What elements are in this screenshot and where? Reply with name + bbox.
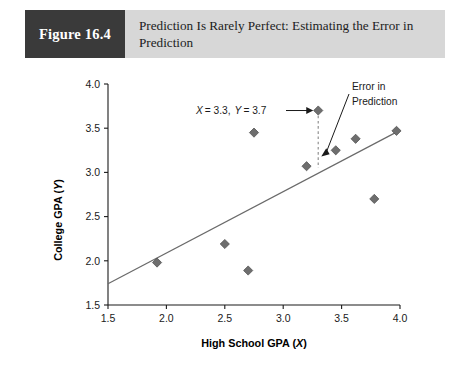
figure-title-line-1: Prediction Is Rarely Perfect: Estimating… [139,18,413,33]
x-axis-tick-label: 4.0 [393,312,408,324]
x-axis-tick-label: 3.0 [276,312,291,324]
coord-x-var: X [195,105,204,116]
error-label-line-1: Error in [352,81,385,92]
y-axis-tick-label: 3.5 [85,122,100,134]
coord-y-value: = 3.7 [243,105,266,116]
chart-region: 1.52.02.53.03.54.0 1.52.02.53.03.54.0 X=… [0,58,469,377]
data-point [370,194,379,203]
figure-number-label: Figure 16.4 [39,26,111,43]
y-axis-title-close: ) [52,179,64,183]
x-axis-tick-label: 3.5 [334,312,349,324]
x-axis-tick-label: 2.5 [217,312,232,324]
data-point [331,146,340,155]
x-axis-title: High School GPA (X) [201,337,307,349]
coord-y-var: Y [235,105,243,116]
x-axis-ticks: 1.52.02.53.03.54.0 [101,305,408,324]
data-point [244,266,253,275]
coord-x-value: = 3.3, [205,105,231,116]
x-axis-title-close: ) [303,337,307,349]
y-axis-tick-label: 4.0 [85,78,100,90]
x-axis-tick-label: 2.0 [159,312,174,324]
y-axis-title: College GPA (Y) [52,179,64,261]
figure-title-line-2: Prediction [139,35,193,50]
data-point [302,162,311,171]
error-annotation-arrowhead [321,148,329,156]
data-point [249,128,258,137]
y-axis-tick-label: 2.0 [85,255,100,267]
regression-line [108,131,399,284]
figure-header: Figure 16.4 Prediction Is Rarely Perfect… [25,10,445,58]
y-axis-ticks: 1.52.02.53.03.54.0 [85,78,108,311]
x-axis-title-main: High School GPA ( [201,337,296,349]
error-in-prediction-annotation: Error in Prediction [321,81,397,156]
point-coordinate-annotation: X= 3.3,Y= 3.7 [195,105,313,116]
x-axis-tick-label: 1.5 [101,312,116,324]
y-axis-tick-label: 3.0 [85,166,100,178]
data-point [220,239,229,248]
y-axis-title-main: College GPA ( [52,190,64,261]
coord-annotation-arrowhead [306,107,313,114]
y-axis-tick-label: 2.5 [85,210,100,222]
point-coordinate-label: X= 3.3,Y= 3.7 [195,105,267,116]
y-axis-tick-label: 1.5 [85,299,100,311]
scatter-plot: 1.52.02.53.03.54.0 1.52.02.53.03.54.0 X=… [0,58,469,377]
figure-title: Prediction Is Rarely Perfect: Estimating… [125,10,445,58]
data-point [351,134,360,143]
data-point-highlighted [314,106,323,115]
data-point-markers [152,106,401,275]
plot-axes [108,84,400,305]
figure-number-block: Figure 16.4 [25,10,125,58]
error-label-line-2: Prediction [352,96,397,107]
error-annotation-arrow [326,94,349,152]
